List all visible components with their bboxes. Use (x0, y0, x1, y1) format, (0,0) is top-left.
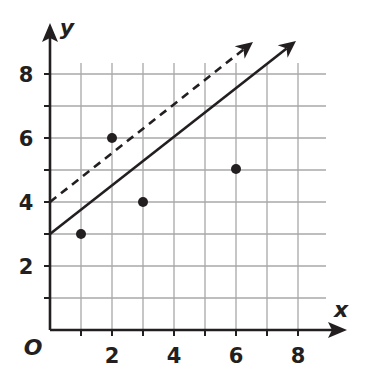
x-tick-label: 4 (167, 344, 182, 368)
y-tick-label: 4 (19, 191, 34, 215)
y-tick-label: 6 (19, 127, 34, 151)
scatter-plot: 24682468Oxy (0, 0, 367, 390)
origin-label: O (24, 335, 43, 360)
axes (42, 23, 347, 338)
grid (50, 63, 326, 330)
data-point (76, 229, 86, 239)
x-tick-label: 6 (229, 344, 244, 368)
dashed-line-arrow-icon (235, 42, 253, 59)
data-point (138, 197, 148, 207)
solid-trend-line-arrow-icon (278, 41, 296, 58)
y-tick-label: 2 (19, 255, 34, 279)
data-point (231, 164, 241, 174)
data-point (107, 133, 117, 143)
x-tick-label: 8 (291, 344, 306, 368)
y-tick-label: 8 (19, 63, 34, 87)
labels: 24682468Oxy (19, 15, 349, 368)
x-tick-label: 2 (105, 344, 120, 368)
x-axis-label: x (333, 297, 349, 322)
dashed-line (50, 49, 244, 202)
y-axis-label: y (60, 15, 76, 40)
solid-trend-line (50, 48, 287, 234)
